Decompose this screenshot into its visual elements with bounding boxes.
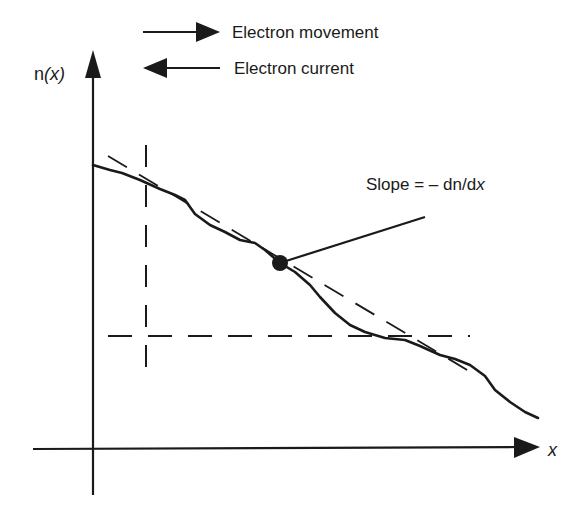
diffusion-diagram: n(x) x Electron movement Electron curren… (0, 0, 585, 522)
legend-electron-movement: Electron movement (143, 22, 379, 42)
slope-annotation: Slope = – dn/dx (366, 175, 485, 194)
annotation-pointer (286, 217, 425, 261)
x-axis-arrowhead-icon (514, 437, 540, 458)
legend-label-movement: Electron movement (232, 23, 379, 42)
arrow-right-icon (196, 22, 220, 42)
tangent-point (272, 255, 288, 271)
y-axis-label: n(x) (34, 64, 65, 84)
legend-label-current: Electron current (234, 59, 354, 78)
y-axis (85, 50, 101, 495)
x-axis (33, 437, 540, 458)
concentration-curve (93, 165, 538, 418)
arrow-left-icon (143, 58, 167, 78)
y-axis-arrowhead-icon (85, 50, 101, 78)
legend-electron-current: Electron current (143, 58, 354, 78)
x-axis-label: x (547, 440, 558, 460)
